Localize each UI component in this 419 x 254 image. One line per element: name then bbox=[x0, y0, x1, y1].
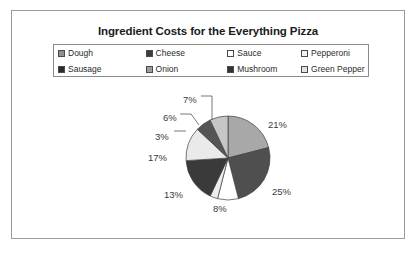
chart-legend: Dough Cheese Sauce Pepperoni Sausage bbox=[53, 44, 369, 77]
pie-value-label: 17% bbox=[148, 152, 167, 163]
pie-value-label: 3% bbox=[155, 131, 169, 142]
legend-label: Onion bbox=[156, 64, 179, 74]
legend-label: Green Pepper bbox=[311, 64, 364, 74]
pie-value-label: 6% bbox=[163, 112, 177, 123]
legend-label: Pepperoni bbox=[311, 48, 350, 58]
legend-item-onion[interactable]: Onion bbox=[146, 64, 228, 74]
legend-row: Sausage Onion Mushroom Green Pepper bbox=[54, 61, 368, 77]
legend-row: Dough Cheese Sauce Pepperoni bbox=[54, 45, 368, 61]
legend-label: Sauce bbox=[237, 48, 261, 58]
pie-value-label: 13% bbox=[164, 189, 183, 200]
legend-label: Dough bbox=[68, 48, 93, 58]
pie-value-label: 8% bbox=[213, 203, 227, 214]
legend-item-dough[interactable]: Dough bbox=[58, 48, 146, 58]
legend-label: Mushroom bbox=[237, 64, 277, 74]
legend-item-green-pepper[interactable]: Green Pepper bbox=[301, 64, 368, 74]
chart-frame: Ingredient Costs for the Everything Pizz… bbox=[11, 10, 405, 239]
pie-value-label: 21% bbox=[268, 119, 287, 130]
legend-item-sausage[interactable]: Sausage bbox=[58, 64, 146, 74]
legend-swatch-icon bbox=[227, 66, 234, 73]
legend-item-cheese[interactable]: Cheese bbox=[146, 48, 228, 58]
chart-title: Ingredient Costs for the Everything Pizz… bbox=[12, 25, 404, 37]
legend-swatch-icon bbox=[58, 50, 65, 57]
legend-swatch-icon bbox=[301, 50, 308, 57]
legend-swatch-icon bbox=[146, 50, 153, 57]
legend-label: Sausage bbox=[68, 64, 102, 74]
legend-swatch-icon bbox=[227, 50, 234, 57]
legend-item-pepperoni[interactable]: Pepperoni bbox=[301, 48, 368, 58]
legend-label: Cheese bbox=[156, 48, 185, 58]
legend-swatch-icon bbox=[146, 66, 153, 73]
pie-value-label: 7% bbox=[183, 94, 197, 105]
legend-item-sauce[interactable]: Sauce bbox=[227, 48, 301, 58]
pie-value-label: 25% bbox=[272, 186, 291, 197]
legend-swatch-icon bbox=[58, 66, 65, 73]
legend-item-mushroom[interactable]: Mushroom bbox=[227, 64, 301, 74]
legend-swatch-icon bbox=[301, 66, 308, 73]
